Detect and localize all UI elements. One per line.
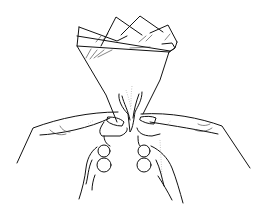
napkin-folding-illustration (0, 0, 266, 222)
left-hand (17, 112, 127, 199)
folded-napkin (77, 16, 177, 132)
right-hand (137, 114, 250, 203)
illustration-canvas (0, 0, 266, 222)
